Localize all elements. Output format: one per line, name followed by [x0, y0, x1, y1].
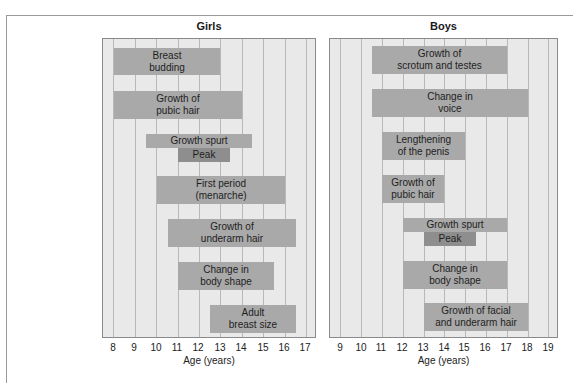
bar-facial-underarm-hair: Growth of facial and underarm hair — [424, 303, 528, 331]
bar-growth-spurt-boys: Growth spurt — [403, 218, 507, 232]
bar-breast-budding: Breast budding — [114, 48, 220, 75]
bar-label: Peak — [439, 233, 462, 245]
bar-label: First period (menarche) — [195, 178, 246, 202]
gridline — [113, 39, 114, 337]
x-tick: 11 — [167, 342, 187, 353]
gridline — [444, 39, 445, 337]
gridline — [528, 39, 529, 337]
gridline — [306, 39, 307, 337]
x-tick: 17 — [295, 342, 315, 353]
x-tick: 19 — [538, 342, 558, 353]
bar-label: Growth of underarm hair — [201, 221, 263, 245]
girls-x-axis-label: Age (years) — [102, 355, 316, 366]
bar-scrotum-testes: Growth of scrotum and testes — [372, 46, 507, 74]
girls-chart-panel: Breast budding Growth of pubic hair Grow… — [102, 38, 316, 338]
x-tick: 15 — [253, 342, 273, 353]
gridline — [361, 39, 362, 337]
bar-adult-breast-size: Adult breast size — [210, 305, 296, 333]
bar-body-shape-boys: Change in body shape — [403, 261, 507, 289]
bar-label: Growth of scrotum and testes — [397, 48, 481, 72]
x-tick: 10 — [146, 342, 166, 353]
x-tick: 8 — [103, 342, 123, 353]
x-tick: 18 — [517, 342, 537, 353]
bar-label: Adult breast size — [229, 307, 277, 331]
x-tick: 11 — [371, 342, 391, 353]
x-tick: 12 — [188, 342, 208, 353]
x-tick: 9 — [124, 342, 144, 353]
bar-growth-spurt-girls: Growth spurt — [146, 134, 252, 148]
gridline — [548, 39, 549, 337]
bar-label: Change in body shape — [429, 263, 481, 287]
gridline — [486, 39, 487, 337]
bar-label: Breast budding — [149, 50, 185, 74]
x-tick: 9 — [330, 342, 350, 353]
bar-voice-change: Change in voice — [372, 89, 528, 117]
boys-x-axis-label: Age (years) — [329, 355, 558, 366]
x-tick: 13 — [413, 342, 433, 353]
x-tick: 12 — [392, 342, 412, 353]
gridline — [135, 39, 136, 337]
x-tick: 16 — [274, 342, 294, 353]
gridline — [285, 39, 286, 337]
bar-first-period: First period (menarche) — [157, 176, 285, 204]
x-tick: 10 — [351, 342, 371, 353]
bar-label: Growth of facial and underarm hair — [435, 305, 517, 329]
bar-pubic-hair-girls: Growth of pubic hair — [114, 91, 242, 119]
boys-chart-title: Boys — [329, 20, 558, 32]
bar-label: Growth of pubic hair — [156, 93, 199, 117]
x-tick: 16 — [475, 342, 495, 353]
bar-label: Peak — [193, 149, 216, 161]
bar-label: Growth of pubic hair — [391, 177, 434, 201]
x-tick: 15 — [454, 342, 474, 353]
frame-left-border — [6, 15, 7, 383]
bar-growth-peak-girls: Peak — [178, 148, 230, 162]
bar-penis-lengthening: Lengthening of the penis — [382, 132, 465, 160]
gridline — [340, 39, 341, 337]
bar-body-shape-girls: Change in body shape — [178, 262, 274, 290]
bar-growth-peak-boys: Peak — [424, 232, 476, 246]
gridline — [465, 39, 466, 337]
gridline — [507, 39, 508, 337]
x-tick: 14 — [231, 342, 251, 353]
x-tick: 13 — [210, 342, 230, 353]
bar-pubic-hair-boys: Growth of pubic hair — [382, 175, 444, 203]
bar-label: Change in voice — [427, 91, 473, 115]
bar-label: Change in body shape — [200, 264, 252, 288]
boys-chart-panel: Growth of scrotum and testes Change in v… — [329, 38, 558, 338]
frame-top-border — [6, 15, 573, 16]
bar-label: Lengthening of the penis — [396, 134, 451, 158]
x-tick: 14 — [434, 342, 454, 353]
girls-chart-title: Girls — [102, 20, 316, 32]
x-tick: 17 — [496, 342, 516, 353]
bar-label: Growth spurt — [170, 135, 227, 147]
bar-label: Growth spurt — [426, 219, 483, 231]
bar-underarm-hair-girls: Growth of underarm hair — [168, 219, 296, 247]
